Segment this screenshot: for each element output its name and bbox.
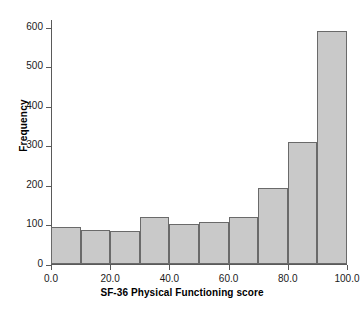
y-tick: 200 [46, 186, 51, 187]
histogram-bar [140, 217, 170, 264]
x-tick [51, 265, 52, 270]
x-axis-title: SF-36 Physical Functioning score [0, 287, 364, 298]
histogram-figure: Frequency 0100200300400500600 0.020.040.… [0, 0, 364, 309]
y-tick-label: 500 [26, 60, 43, 71]
x-axis-line [51, 264, 347, 265]
x-tick-label: 40.0 [160, 273, 179, 284]
histogram-bar [317, 31, 347, 264]
x-tick-label: 100.0 [334, 273, 359, 284]
plot-area: 0100200300400500600 0.020.040.060.080.01… [51, 20, 347, 265]
y-tick-label: 600 [26, 21, 43, 32]
histogram-bar [169, 224, 199, 264]
y-axis-title: Frequency [18, 66, 29, 186]
histogram-bar [288, 142, 318, 265]
histogram-bar [258, 188, 288, 264]
y-tick: 300 [46, 146, 51, 147]
histogram-bar [81, 230, 111, 264]
y-tick-label: 400 [26, 100, 43, 111]
x-tick-label: 80.0 [278, 273, 297, 284]
x-tick-label: 60.0 [219, 273, 238, 284]
y-tick-label: 0 [37, 258, 43, 269]
y-tick-label: 300 [26, 139, 43, 150]
y-tick-label: 200 [26, 179, 43, 190]
y-tick-label: 100 [26, 218, 43, 229]
x-tick-label: 0.0 [44, 273, 58, 284]
x-tick-label: 20.0 [100, 273, 119, 284]
histogram-bar [199, 222, 229, 264]
y-tick: 400 [46, 107, 51, 108]
histogram-bar [51, 227, 81, 264]
x-tick [229, 265, 230, 270]
histogram-bar [229, 217, 259, 264]
y-tick: 600 [46, 28, 51, 29]
x-tick [169, 265, 170, 270]
histogram-bar [110, 231, 140, 264]
x-tick [288, 265, 289, 270]
x-tick [347, 265, 348, 270]
y-tick: 500 [46, 67, 51, 68]
x-tick [110, 265, 111, 270]
